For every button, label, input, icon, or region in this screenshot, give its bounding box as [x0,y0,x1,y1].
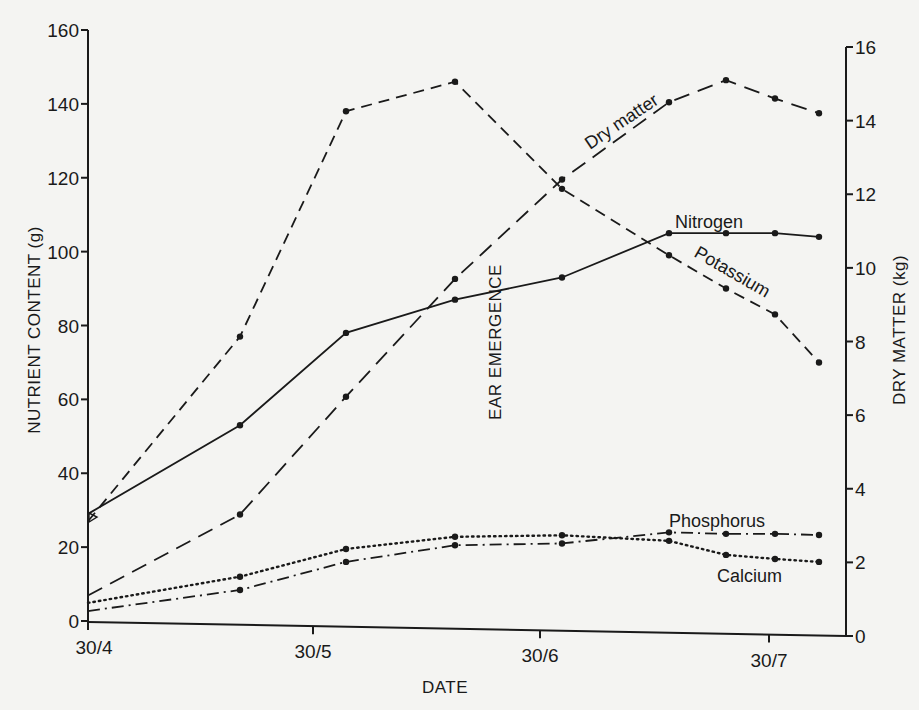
x-axis-line [88,622,846,636]
data-point [237,573,243,579]
y-right-tick-label: 12 [855,184,876,205]
x-axis-title: DATE [422,678,468,697]
y-left-tick-label: 100 [47,242,79,263]
data-point [559,532,565,538]
data-point [559,540,565,546]
data-point [772,95,778,101]
data-point [237,511,243,517]
y-right-axis-title: DRY MATTER (kg) [890,255,909,405]
data-point [559,176,565,182]
y-right-tick-label: 8 [855,332,866,353]
dry-matter-label: Dry matter [581,90,662,154]
y-right-tick-label: 0 [855,626,866,647]
data-point [343,394,349,400]
calcium-label: Calcium [717,566,782,586]
data-point [343,559,349,565]
y-right-tick-label: 14 [855,111,877,132]
data-point [237,422,243,428]
data-point [343,546,349,552]
y-right-tick-label: 4 [855,479,866,500]
ear-emergence-label: EAR EMERGENCE [486,264,505,420]
series-nitrogen [88,230,822,514]
series-line [88,233,819,514]
data-point [452,296,458,302]
data-point [237,587,243,593]
y-left-tick-label: 60 [58,389,79,410]
data-point [666,230,672,236]
potassium-label: Potassium [691,242,774,301]
data-point [237,333,243,339]
x-tick-label: 30/4 [76,637,113,658]
data-point [723,531,729,537]
y-right-tick-label: 6 [855,405,866,426]
y-left-tick-label: 20 [58,537,79,558]
data-point [666,99,672,105]
y-right-tick-label: 10 [855,258,876,279]
data-point [772,531,778,537]
chart-canvas: 020406080100120140160024681012141630/430… [0,0,919,710]
y-left-tick-label: 120 [47,168,79,189]
data-point [559,186,565,192]
data-point [452,79,458,85]
data-point [452,276,458,282]
data-point [723,285,729,291]
nitrogen-label: Nitrogen [675,212,743,232]
data-point [723,77,729,83]
data-point [816,359,822,365]
data-point [343,108,349,114]
phosphorus-label: Phosphorus [669,511,765,531]
y-left-tick-label: 140 [47,94,79,115]
series-phosphorus [88,529,822,611]
data-point [666,538,672,544]
data-point [772,311,778,317]
data-point [816,559,822,565]
y-left-tick-label: 0 [68,611,79,632]
data-point [816,110,822,116]
x-tick-label: 30/6 [522,645,559,666]
data-point [772,230,778,236]
data-point [816,532,822,538]
y-left-tick-label: 160 [47,20,79,41]
data-point [816,234,822,240]
data-point [772,556,778,562]
data-point [666,252,672,258]
data-point [343,330,349,336]
data-point [452,542,458,548]
data-point [452,534,458,540]
data-point [559,274,565,280]
y-left-tick-label: 80 [58,316,79,337]
y-right-tick-label: 2 [855,552,866,573]
x-tick-label: 30/5 [295,641,332,662]
y-right-tick-label: 16 [855,37,876,58]
y-left-tick-label: 40 [58,463,79,484]
y-left-axis-title: NUTRIENT CONTENT (g) [25,226,44,434]
x-tick-label: 30/7 [751,650,788,671]
nutrient-uptake-chart: 020406080100120140160024681012141630/430… [0,0,919,710]
data-point [723,552,729,558]
